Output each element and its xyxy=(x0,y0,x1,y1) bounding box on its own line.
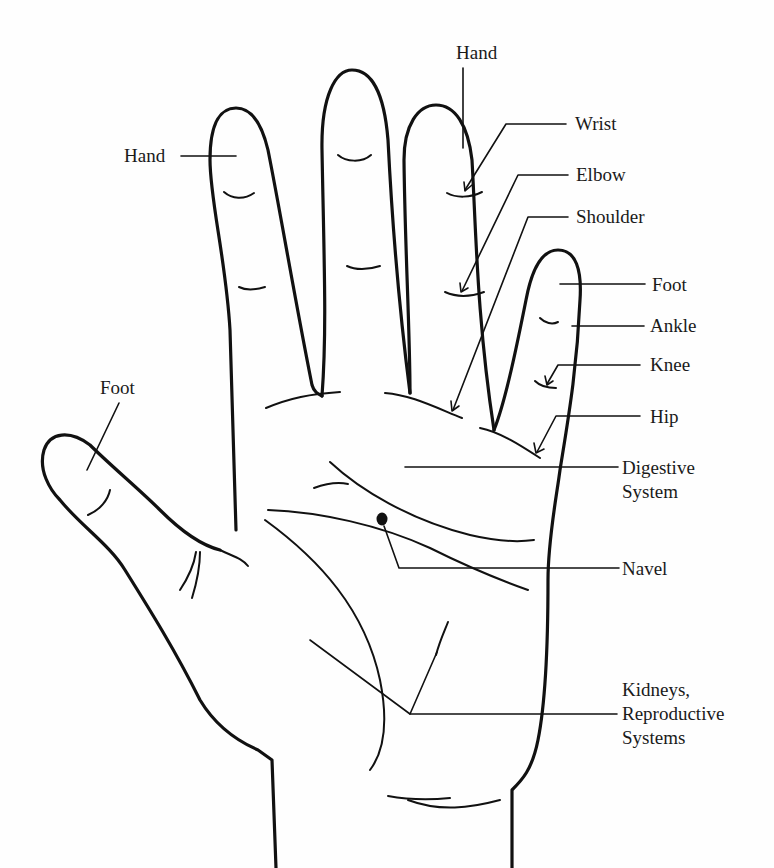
label-kidneys-3: Systems xyxy=(622,727,685,749)
navel-dot xyxy=(377,513,388,526)
leader-lines xyxy=(87,68,645,714)
label-wrist: Wrist xyxy=(575,113,616,135)
label-hand-index: Hand xyxy=(124,145,165,167)
label-ankle: Ankle xyxy=(650,315,696,337)
label-foot-pinky: Foot xyxy=(652,274,687,296)
label-kidneys-1: Kidneys, xyxy=(622,679,690,701)
label-foot-thumb: Foot xyxy=(100,377,135,399)
label-shoulder: Shoulder xyxy=(576,206,645,228)
label-navel: Navel xyxy=(622,558,667,580)
hand-outline xyxy=(42,70,580,868)
label-digestive-2: System xyxy=(622,481,678,503)
label-hand-ring: Hand xyxy=(456,42,497,64)
label-kidneys-2: Reproductive xyxy=(622,703,724,725)
hand-diagram: Hand Hand Wrist Elbow Shoulder Foot Ankl… xyxy=(0,0,774,868)
label-hip: Hip xyxy=(650,406,679,428)
label-knee: Knee xyxy=(650,354,690,376)
label-elbow: Elbow xyxy=(576,164,626,186)
label-digestive-1: Digestive xyxy=(622,457,695,479)
